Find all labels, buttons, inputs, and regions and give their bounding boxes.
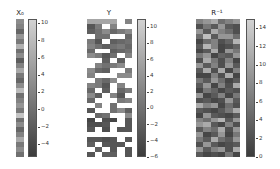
colorbar-tick-label: 0 bbox=[150, 105, 154, 111]
colorbar-tick-label: −2 bbox=[150, 122, 158, 128]
heatmap-cell bbox=[225, 152, 232, 157]
colorbar-tick-label: 4 bbox=[150, 73, 154, 79]
colorbar-tick-label: 8 bbox=[41, 38, 45, 44]
y-colorbar bbox=[137, 19, 146, 157]
heatmap-cell bbox=[125, 152, 133, 157]
colorbar-tick-label: 10 bbox=[259, 62, 266, 68]
colorbar-tick-label: 12 bbox=[259, 44, 266, 50]
colorbar-tick-label: −4 bbox=[150, 138, 158, 144]
colorbar-tick-label: 2 bbox=[41, 89, 45, 95]
colorbar-tick-label: 0 bbox=[259, 154, 263, 160]
colorbar-tick-label: 10 bbox=[150, 24, 157, 30]
x0-title: X₀ bbox=[14, 9, 26, 17]
colorbar-tick-label: 4 bbox=[41, 72, 45, 78]
rinv-colorbar bbox=[246, 19, 255, 157]
x0-colorbar bbox=[28, 19, 37, 157]
y-heatmap bbox=[87, 19, 132, 157]
heatmap-cell bbox=[16, 152, 24, 157]
x0-heatmap bbox=[16, 19, 24, 157]
heatmap-cell bbox=[102, 152, 110, 157]
colorbar-tick-label: 6 bbox=[150, 57, 154, 63]
colorbar-tick-label: 6 bbox=[41, 55, 45, 61]
colorbar-tick-label: 2 bbox=[259, 136, 263, 142]
rinv-heatmap bbox=[196, 19, 240, 157]
colorbar-tick-label: 2 bbox=[150, 89, 154, 95]
heatmap-cell bbox=[211, 152, 218, 157]
colorbar-tick-label: 8 bbox=[259, 80, 263, 86]
heatmap-cell bbox=[233, 152, 240, 157]
heatmap-cell bbox=[110, 152, 118, 157]
heatmap-cell bbox=[117, 152, 125, 157]
colorbar-tick-label: 14 bbox=[259, 25, 266, 31]
heatmap-cell bbox=[203, 152, 210, 157]
colorbar-tick-label: −2 bbox=[41, 124, 49, 130]
colorbar-tick-label: −4 bbox=[41, 141, 49, 147]
y-title: Y bbox=[103, 9, 115, 17]
rinv-title: R⁻¹ bbox=[209, 9, 225, 17]
heatmap-cell bbox=[95, 152, 103, 157]
colorbar-tick-label: 0 bbox=[41, 107, 45, 113]
colorbar-tick-label: −6 bbox=[150, 154, 158, 160]
colorbar-tick-label: 8 bbox=[150, 40, 154, 46]
heatmap-cell bbox=[218, 152, 225, 157]
colorbar-tick-label: 4 bbox=[259, 117, 263, 123]
heatmap-cell bbox=[196, 152, 203, 157]
colorbar-tick-label: 6 bbox=[259, 99, 263, 105]
heatmap-cell bbox=[87, 152, 95, 157]
colorbar-tick-label: 10 bbox=[41, 20, 48, 26]
